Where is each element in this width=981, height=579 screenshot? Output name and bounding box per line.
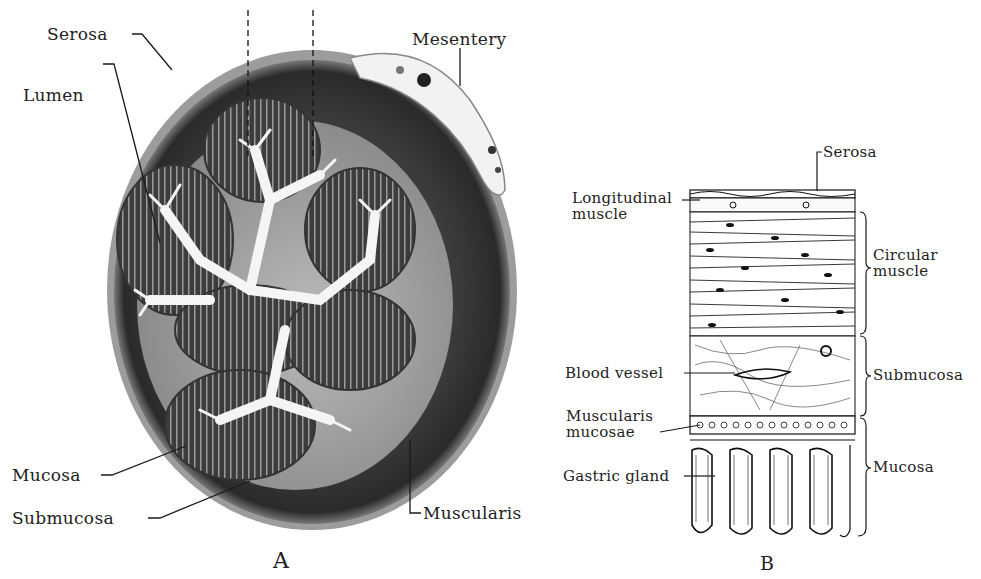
label-mesentery: Mesentery bbox=[412, 30, 507, 48]
label-mucosa-b: Mucosa bbox=[873, 459, 934, 475]
brace-circular-muscle bbox=[860, 212, 871, 334]
label-gastric-gland: Gastric gland bbox=[563, 468, 669, 484]
label-longitudinal-muscle: Longitudinal muscle bbox=[572, 190, 672, 222]
label-submucosa-b: Submucosa bbox=[873, 367, 963, 383]
label-circular-muscle: Circular muscle bbox=[873, 247, 938, 279]
brace-submucosa bbox=[860, 336, 871, 416]
wall-layers-drawing bbox=[690, 190, 855, 537]
label-muscularis: Muscularis bbox=[423, 504, 521, 522]
label-submucosa-a: Submucosa bbox=[12, 509, 114, 527]
label-serosa-a: Serosa bbox=[47, 25, 108, 43]
label-mucosa-a: Mucosa bbox=[12, 466, 81, 484]
panel-letter-b: B bbox=[760, 552, 774, 574]
panel-letter-a: A bbox=[273, 548, 289, 573]
figure-canvas bbox=[0, 0, 981, 579]
label-muscularis-mucosae: Muscularis mucosae bbox=[566, 408, 653, 440]
cross-section-photo bbox=[107, 50, 517, 530]
label-blood-vessel: Blood vessel bbox=[565, 365, 663, 381]
label-lumen: Lumen bbox=[23, 86, 84, 104]
label-serosa-b: Serosa bbox=[823, 144, 877, 160]
brace-mucosa bbox=[858, 418, 871, 536]
